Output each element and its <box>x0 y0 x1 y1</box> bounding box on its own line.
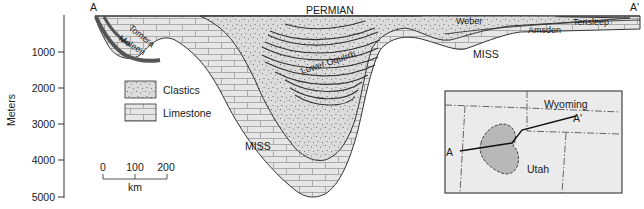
inset-a-label: A <box>446 146 453 158</box>
scale-unit-label: km <box>128 181 142 193</box>
tensleep-label: Tensleep <box>573 17 609 27</box>
miss-left-label: MISS <box>245 140 271 152</box>
scale-tick-100: 100 <box>126 161 144 173</box>
scale-bar: 0 100 200 km <box>100 161 175 193</box>
y-tick-5000: 5000 <box>32 191 56 203</box>
y-tick-1000: 1000 <box>32 46 56 58</box>
utah-label: Utah <box>527 163 549 175</box>
inset-a-prime-label: A' <box>573 112 582 124</box>
scale-tick-200: 200 <box>157 161 175 173</box>
legend: Clastics Limestone <box>125 81 212 121</box>
y-tick-2000: 2000 <box>32 82 56 94</box>
y-axis-label: Meters <box>5 94 17 126</box>
endpoint-a-label: A <box>90 1 97 13</box>
miss-right-label: MISS <box>473 48 499 60</box>
weber-label: Weber <box>456 16 482 26</box>
y-tick-4000: 4000 <box>32 154 56 166</box>
cross-section-figure: 1000 2000 3000 4000 5000 Meters <box>0 0 644 209</box>
amsden-label: Amsden <box>528 25 561 35</box>
legend-swatch-limestone <box>125 104 156 121</box>
inset-map: A A' Wyoming Utah <box>445 91 622 193</box>
scale-tick-0: 0 <box>100 161 106 173</box>
permian-label: PERMIAN <box>306 4 354 16</box>
y-axis-ticks: 1000 2000 3000 4000 5000 <box>32 46 64 203</box>
y-tick-3000: 3000 <box>32 118 56 130</box>
legend-label-limestone: Limestone <box>163 107 212 119</box>
endpoint-a-prime-label: A' <box>630 1 639 13</box>
wyoming-label: Wyoming <box>544 98 588 110</box>
legend-swatch-clastics <box>125 81 156 98</box>
legend-label-clastics: Clastics <box>163 84 200 96</box>
y-axis: 1000 2000 3000 4000 5000 Meters <box>5 15 64 203</box>
